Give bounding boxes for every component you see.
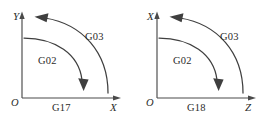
figure-root: Y X O G17 G03 G02	[0, 0, 274, 117]
vertical-axis-label-g18: X	[146, 10, 155, 22]
diagram-panel-g18: X Z O G18 G03 G02	[137, 0, 274, 117]
plane-label-g17: G17	[52, 102, 71, 113]
origin-label-g17: O	[11, 97, 19, 108]
plane-label-g18: G18	[187, 102, 206, 113]
horizontal-axis-label-g18: Z	[245, 101, 252, 113]
arc-g03-g17	[35, 13, 109, 93]
horizontal-axis-g17	[22, 95, 121, 100]
vertical-axis-g18	[154, 12, 159, 99]
horizontal-axis-label-g17: X	[109, 101, 118, 113]
arc-g03-g18	[170, 13, 244, 93]
horizontal-axis-g18	[157, 95, 256, 100]
vertical-axis-label-g17: Y	[13, 10, 21, 22]
diagram-panel-g17: Y X O G17 G03 G02	[0, 0, 137, 117]
arc-code-label-g03-g17: G03	[85, 31, 104, 42]
origin-label-g18: O	[146, 97, 154, 108]
arc-code-label-g02-g18: G02	[173, 55, 192, 66]
arc-code-label-g02-g17: G02	[38, 55, 57, 66]
arc-code-label-g03-g18: G03	[220, 31, 239, 42]
vertical-axis-g17	[19, 12, 24, 99]
